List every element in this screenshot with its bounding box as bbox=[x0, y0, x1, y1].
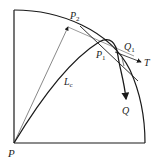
geometry-figure: P P2 P1 Q1 T Q Lc bbox=[0, 0, 156, 163]
label-p1: P1 bbox=[95, 49, 106, 62]
diagram: P P2 P1 Q1 T Q Lc bbox=[0, 0, 156, 163]
tangent-line bbox=[80, 26, 138, 81]
radius-line-p-p2 bbox=[14, 27, 68, 143]
outer-arc bbox=[14, 10, 145, 143]
label-p: P bbox=[7, 147, 15, 159]
label-p2: P2 bbox=[69, 10, 80, 23]
curve-lc bbox=[14, 42, 99, 143]
curve-to-q bbox=[99, 40, 126, 99]
label-t: T bbox=[144, 57, 151, 68]
label-lc: Lc bbox=[63, 76, 73, 89]
label-q: Q bbox=[122, 105, 130, 116]
